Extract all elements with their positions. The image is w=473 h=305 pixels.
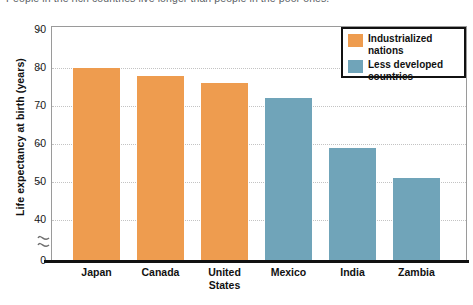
x-label-line1: United bbox=[193, 266, 256, 279]
x-axis-label-canada: Canada bbox=[129, 266, 192, 279]
bar-zambia bbox=[393, 178, 440, 261]
bar-mexico bbox=[265, 98, 312, 261]
legend-item-industrialized: Industrialized nations bbox=[348, 33, 460, 56]
legend-swatch-less-developed bbox=[348, 60, 363, 73]
x-label-line1: Canada bbox=[129, 266, 192, 279]
x-label-line1: India bbox=[321, 266, 384, 279]
bar-canada bbox=[137, 76, 184, 261]
chart-legend: Industrialized nations Less developed co… bbox=[341, 27, 466, 78]
chart-figure: People in the rich countries live longer… bbox=[0, 0, 473, 305]
x-label-line1: Zambia bbox=[385, 266, 448, 279]
x-axis-baseline bbox=[44, 260, 469, 263]
legend-item-less-developed: Less developed countries bbox=[348, 59, 460, 82]
x-label-line1: Japan bbox=[65, 266, 128, 279]
bar-india bbox=[329, 148, 376, 261]
x-label-line2: States bbox=[193, 279, 256, 292]
bar-united-states bbox=[201, 83, 248, 261]
x-axis-label-united-states: UnitedStates bbox=[193, 266, 256, 291]
x-axis-label-mexico: Mexico bbox=[257, 266, 320, 279]
x-label-line1: Mexico bbox=[257, 266, 320, 279]
legend-swatch-industrialized bbox=[348, 34, 363, 47]
legend-label-industrialized: Industrialized nations bbox=[368, 33, 460, 56]
legend-label-less-developed: Less developed countries bbox=[368, 59, 460, 82]
x-axis-label-japan: Japan bbox=[65, 266, 128, 279]
x-axis-label-zambia: Zambia bbox=[385, 266, 448, 279]
bar-japan bbox=[73, 68, 120, 261]
x-axis-label-india: India bbox=[321, 266, 384, 279]
